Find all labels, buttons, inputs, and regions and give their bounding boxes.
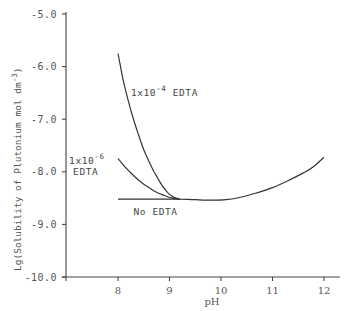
y-tick-label: -8.0	[31, 166, 57, 177]
x-axis-title: pH	[204, 296, 219, 307]
axes	[62, 12, 340, 281]
y-ticks: -5.0-6.0-7.0-8.0-9.0-10.0	[24, 9, 66, 283]
x-tick-label: 9	[166, 285, 172, 296]
y-tick-label: -10.0	[24, 272, 57, 283]
annotation-suffix: EDTA	[166, 87, 198, 98]
y-tick-label: -5.0	[31, 9, 57, 20]
annotations: 1x10-4 EDTA1x10-6EDTANo EDTA	[69, 84, 198, 218]
annotation-label: 1x10-6	[69, 152, 105, 166]
series-line-1x10-6-edta	[118, 159, 180, 200]
series-line-no-edta	[118, 157, 324, 200]
y-tick-label: -9.0	[31, 219, 57, 230]
annotation-label: No EDTA	[133, 206, 177, 217]
x-tick-label: 11	[266, 285, 279, 296]
x-tick-label: 8	[115, 285, 121, 296]
y-axis-title: Lg(Solubility of Plutonium mol dm-3)	[10, 67, 23, 271]
annotation-label: 1x10-4 EDTA	[131, 84, 198, 98]
series-group	[118, 54, 324, 201]
series-line-1x10-4-edta	[118, 54, 180, 200]
x-tick-label: 10	[215, 285, 228, 296]
annotation-base: 1x10	[69, 155, 94, 166]
y-tick-label: -7.0	[31, 114, 57, 125]
annotation-exponent: -4	[156, 84, 166, 93]
annotation-label-line2: EDTA	[73, 166, 98, 177]
y-tick-label: -6.0	[31, 61, 57, 72]
annotation-base: 1x10	[131, 87, 156, 98]
x-tick-label: 12	[318, 285, 331, 296]
solubility-chart: -5.0-6.0-7.0-8.0-9.0-10.0 89101112 1x10-…	[0, 0, 352, 311]
x-ticks: 89101112	[115, 277, 331, 296]
annotation-exponent: -6	[94, 152, 104, 161]
